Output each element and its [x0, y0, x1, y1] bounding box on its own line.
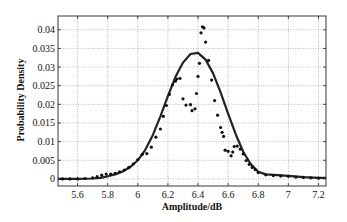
data-point	[168, 93, 171, 96]
y-axis-ticks: 00.0050.010.0150.020.0250.030.0350.04	[33, 24, 327, 184]
data-point	[171, 83, 174, 86]
grid-lines	[58, 16, 326, 186]
y-tick-label: 0.005	[33, 155, 56, 166]
data-point	[178, 77, 181, 80]
data-point	[236, 145, 239, 148]
data-point	[227, 150, 230, 153]
data-point	[100, 174, 103, 177]
data-point	[242, 152, 245, 155]
data-point	[317, 177, 320, 180]
data-point	[114, 172, 117, 175]
data-point	[239, 148, 242, 151]
data-point	[245, 159, 248, 162]
y-tick-label: 0	[50, 173, 55, 184]
data-point	[162, 115, 165, 118]
x-tick-label: 6	[135, 189, 140, 200]
x-tick-label: 6.4	[192, 189, 205, 200]
data-point	[181, 97, 184, 100]
data-point	[230, 154, 233, 157]
data-point	[309, 176, 312, 179]
data-point	[264, 173, 267, 176]
data-point	[141, 153, 144, 156]
data-point	[196, 75, 199, 78]
data-point	[193, 107, 196, 110]
data-point	[233, 145, 236, 148]
chart: 5.65.866.26.46.66.877.2 00.0050.010.0150…	[0, 0, 347, 222]
data-point	[272, 174, 275, 177]
data-point	[127, 166, 130, 169]
data-point	[287, 175, 290, 178]
data-point	[204, 41, 207, 44]
data-point	[118, 170, 121, 173]
data-point	[302, 176, 305, 179]
y-tick-label: 0.035	[33, 43, 56, 54]
data-point	[251, 166, 254, 169]
y-tick-label: 0.03	[38, 62, 56, 73]
data-point	[175, 77, 178, 80]
data-point	[198, 62, 201, 65]
data-point	[248, 163, 251, 166]
data-point	[224, 149, 227, 152]
x-tick-label: 6.8	[252, 189, 265, 200]
data-point	[91, 176, 94, 179]
x-axis-label: Amplitude/dB	[162, 201, 223, 212]
data-point	[123, 168, 126, 171]
y-tick-label: 0.04	[38, 24, 56, 35]
y-tick-label: 0.02	[38, 99, 56, 110]
data-point	[165, 104, 168, 107]
x-tick-label: 6.6	[222, 189, 235, 200]
data-point	[199, 31, 202, 34]
data-point	[84, 177, 87, 180]
data-point	[202, 26, 205, 29]
data-point	[76, 177, 79, 180]
data-point	[68, 177, 71, 180]
x-tick-label: 5.6	[71, 189, 84, 200]
data-point	[294, 176, 297, 179]
data-point	[195, 92, 198, 95]
x-tick-label: 7	[286, 189, 291, 200]
data-point	[221, 131, 224, 134]
y-tick-label: 0.01	[38, 136, 56, 147]
data-point	[189, 103, 192, 106]
data-point	[159, 127, 162, 130]
data-point	[136, 158, 139, 161]
data-point	[145, 152, 148, 155]
x-tick-label: 5.8	[101, 189, 114, 200]
data-point	[61, 177, 64, 180]
data-point	[184, 104, 187, 107]
data-point	[279, 174, 282, 177]
data-point	[150, 146, 153, 149]
data-point	[96, 175, 99, 178]
data-point	[105, 173, 108, 176]
data-point	[207, 59, 210, 62]
data-point	[132, 162, 135, 165]
data-point	[254, 168, 257, 171]
data-point	[190, 109, 193, 112]
data-point	[213, 99, 216, 102]
y-axis-label: Probability Density	[15, 59, 26, 142]
y-tick-label: 0.025	[33, 80, 56, 91]
x-tick-label: 6.2	[162, 189, 175, 200]
x-tick-label: 7.2	[312, 189, 325, 200]
data-point	[216, 114, 219, 117]
data-point	[210, 79, 213, 82]
y-tick-label: 0.015	[33, 117, 56, 128]
data-point	[219, 126, 222, 129]
data-point	[222, 135, 225, 138]
data-point	[231, 151, 234, 154]
data-point	[109, 173, 112, 176]
data-point	[257, 171, 260, 174]
data-point	[154, 136, 157, 139]
